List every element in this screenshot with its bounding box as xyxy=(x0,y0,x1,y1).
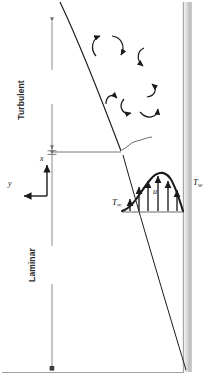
boundary-layer-edge-curve xyxy=(60,2,186,370)
laminar-region-label: Laminar xyxy=(28,225,37,305)
velocity-label: u xyxy=(153,188,157,196)
free-stream-temp-subscript: ∞ xyxy=(117,201,122,208)
laminar-dimension-line xyxy=(48,154,57,370)
x-axis-label: x xyxy=(40,155,44,163)
wall-temperature-label: Tw xyxy=(193,178,202,188)
transition-marker xyxy=(52,137,152,152)
turbulent-region-label: Turbulent xyxy=(17,60,26,140)
free-stream-temperature-label: T∞ xyxy=(112,198,122,208)
convection-boundary-layer-diagram: x y u T∞ Tw Turbulent Laminar xyxy=(0,0,209,385)
y-axis-label: y xyxy=(8,180,12,188)
diagram-canvas xyxy=(0,0,209,385)
wall-temp-subscript: w xyxy=(198,181,202,188)
coordinate-axes xyxy=(24,165,47,196)
wall-slab xyxy=(183,2,192,372)
turbulence-eddy-arrows xyxy=(93,36,158,117)
turbulent-dimension-line xyxy=(48,22,57,151)
